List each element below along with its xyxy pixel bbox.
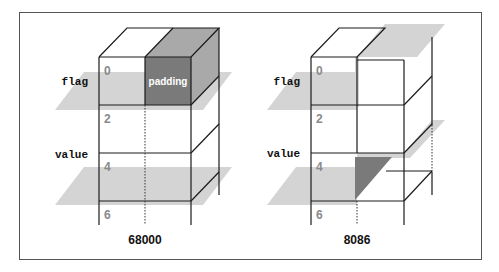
padding-label: padding [149,76,188,87]
field-label-flag: flag [274,76,300,88]
diagram-8086: flag value 0 2 4 6 8086 [267,24,445,247]
architecture-label: 68000 [128,233,162,247]
offset-label: 4 [104,160,111,174]
field-label-value: value [55,149,88,161]
edge [191,124,219,153]
offset-label: 2 [316,112,323,126]
offset-label: 4 [316,160,323,174]
offset-label: 0 [104,64,111,78]
offset-label: 6 [104,208,111,222]
memory-alignment-diagram: padding flag value 0 2 4 6 68000 [0,0,499,272]
offset-label: 6 [316,208,323,222]
field-label-flag: flag [62,76,88,88]
architecture-label: 8086 [344,233,371,247]
offset-label: 0 [316,64,323,78]
value-padding-block [355,157,392,200]
offset-label: 2 [104,112,111,126]
edge [404,76,432,105]
diagram-68000: padding flag value 0 2 4 6 68000 [55,28,232,247]
value-plane-left [267,167,357,205]
edge [404,171,432,201]
field-label-value: value [267,148,300,160]
